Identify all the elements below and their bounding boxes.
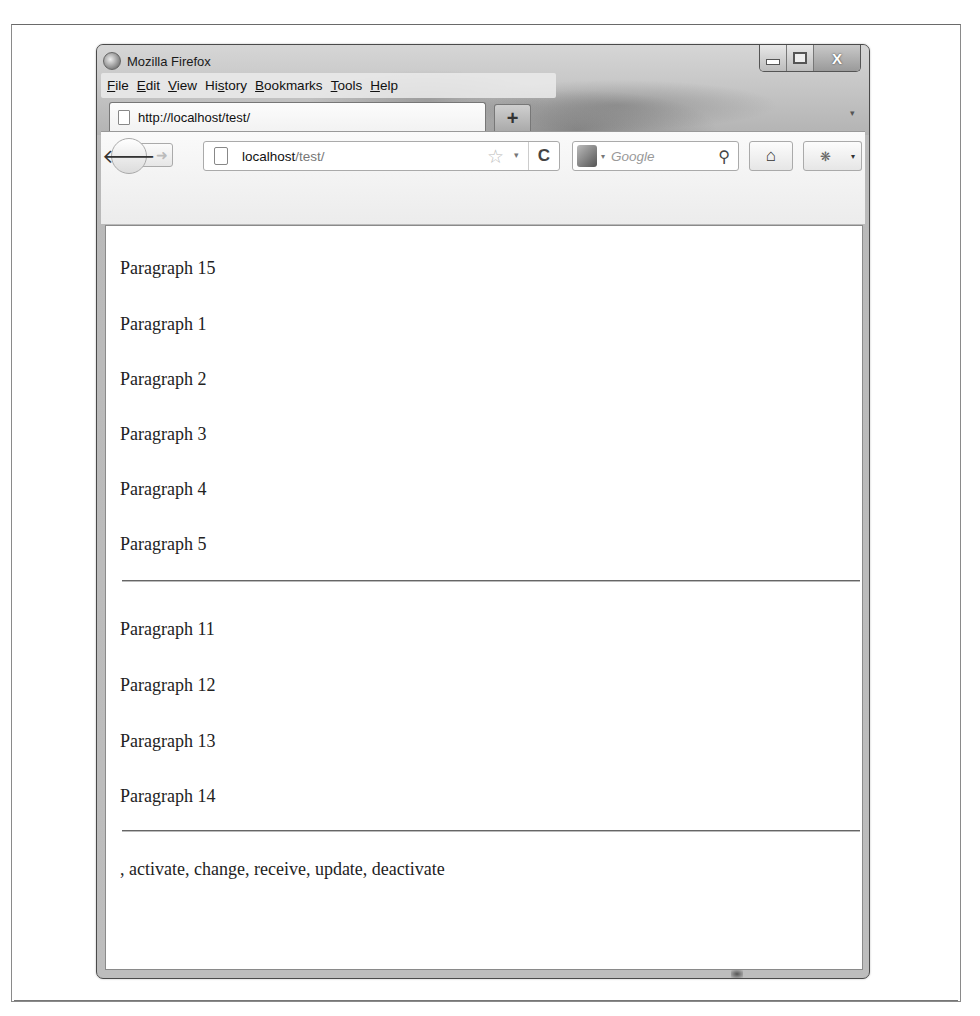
menu-file-label: ile (115, 78, 129, 93)
paragraph: Paragraph 1 (120, 313, 206, 335)
menu-file-accesskey: F (107, 78, 115, 93)
window-title: Mozilla Firefox (127, 54, 211, 69)
forward-arrow-icon: ➜ (156, 147, 168, 163)
firefox-logo-icon (103, 52, 121, 70)
close-icon: X (832, 50, 842, 67)
chevron-down-icon: ▾ (851, 152, 855, 161)
page-icon (118, 110, 130, 125)
addon-dropdown-button[interactable]: ▾ (845, 141, 862, 171)
tab-localhost-test[interactable]: http://localhost/test/ (109, 102, 486, 132)
search-bar[interactable]: ▾ Google ⚲ (572, 141, 739, 171)
paragraph: Paragraph 13 (120, 730, 215, 752)
caption-divider (14, 1000, 958, 1001)
page-content: Paragraph 15 Paragraph 1 Paragraph 2 Par… (105, 225, 863, 970)
menu-view[interactable]: View (168, 78, 197, 93)
maximize-icon (793, 52, 807, 64)
menu-history-accesskey: s (218, 78, 225, 93)
menu-view-accesskey: V (168, 78, 177, 93)
url-history-dropdown-icon[interactable]: ▾ (514, 150, 519, 160)
addon-button[interactable]: ❋ (803, 141, 847, 171)
menu-bookmarks[interactable]: Bookmarks (255, 78, 323, 93)
paragraph: Paragraph 12 (120, 674, 215, 696)
menu-bookmarks-accesskey: B (255, 78, 264, 93)
bookmark-star-icon[interactable]: ☆ (487, 145, 504, 168)
home-button[interactable]: ⌂ (749, 141, 793, 171)
close-button[interactable]: X (814, 45, 860, 71)
site-identity-icon[interactable] (214, 147, 228, 165)
menu-edit-label: dit (146, 78, 160, 93)
browser-window: Mozilla Firefox X File Edit View History… (96, 44, 870, 979)
menu-help-accesskey: H (370, 78, 380, 93)
horizontal-rule (122, 830, 860, 832)
url-path: /test/ (295, 149, 324, 164)
reload-icon: C (538, 146, 550, 166)
paragraph: Paragraph 5 (120, 533, 206, 555)
menu-help[interactable]: Help (370, 78, 398, 93)
paragraph: Paragraph 3 (120, 423, 206, 445)
menu-edit[interactable]: Edit (137, 78, 160, 93)
maximize-button[interactable] (787, 45, 814, 71)
search-input[interactable]: Google (611, 149, 718, 164)
menu-history-prefix: Hi (205, 78, 218, 93)
menu-view-label: iew (177, 78, 197, 93)
minimize-button[interactable] (760, 45, 787, 71)
reload-button[interactable]: C (528, 142, 559, 170)
search-icon[interactable]: ⚲ (718, 147, 730, 166)
url-bar[interactable]: localhost/test/ ☆ ▾ C (203, 141, 560, 171)
menu-history-label: tory (225, 78, 248, 93)
menu-history[interactable]: History (205, 78, 247, 93)
paragraph: Paragraph 14 (120, 785, 215, 807)
menu-bookmarks-label: ookmarks (264, 78, 323, 93)
menu-tools[interactable]: Tools (331, 78, 363, 93)
tab-strip: http://localhost/test/ + ▾ (105, 102, 861, 131)
search-engine-dropdown-icon[interactable]: ▾ (601, 152, 605, 161)
menu-bar: File Edit View History Bookmarks Tools H… (101, 73, 556, 98)
title-bar: Mozilla Firefox (103, 49, 211, 73)
menu-help-label: elp (380, 78, 398, 93)
home-icon: ⌂ (766, 146, 776, 166)
url-host: localhost (242, 149, 295, 164)
event-log-text: , activate, change, receive, update, dea… (120, 858, 445, 880)
menu-file[interactable]: File (107, 78, 129, 93)
menu-edit-accesskey: E (137, 78, 146, 93)
tab-label: http://localhost/test/ (138, 110, 250, 125)
new-tab-button[interactable]: + (494, 104, 531, 132)
back-button[interactable]: 🡐 (111, 138, 147, 174)
paragraph: Paragraph 15 (120, 257, 215, 279)
url-text[interactable]: localhost/test/ (242, 149, 325, 164)
menu-tools-label: ools (337, 78, 362, 93)
minimize-icon (766, 59, 780, 65)
navigation-toolbar: ➜ 🡐 localhost/test/ ☆ ▾ C ▾ Google ⚲ (101, 131, 865, 224)
status-bar-shadow (731, 970, 743, 978)
paragraph: Paragraph 4 (120, 478, 206, 500)
tab-list-arrow-icon[interactable]: ▾ (850, 108, 855, 118)
search-engine-icon[interactable] (577, 145, 597, 167)
paragraph: Paragraph 11 (120, 618, 215, 640)
addon-icon: ❋ (820, 149, 831, 164)
window-controls: X (759, 45, 861, 72)
horizontal-rule (122, 580, 860, 582)
paragraph: Paragraph 2 (120, 368, 206, 390)
back-arrow-icon: 🡐 (102, 144, 156, 168)
